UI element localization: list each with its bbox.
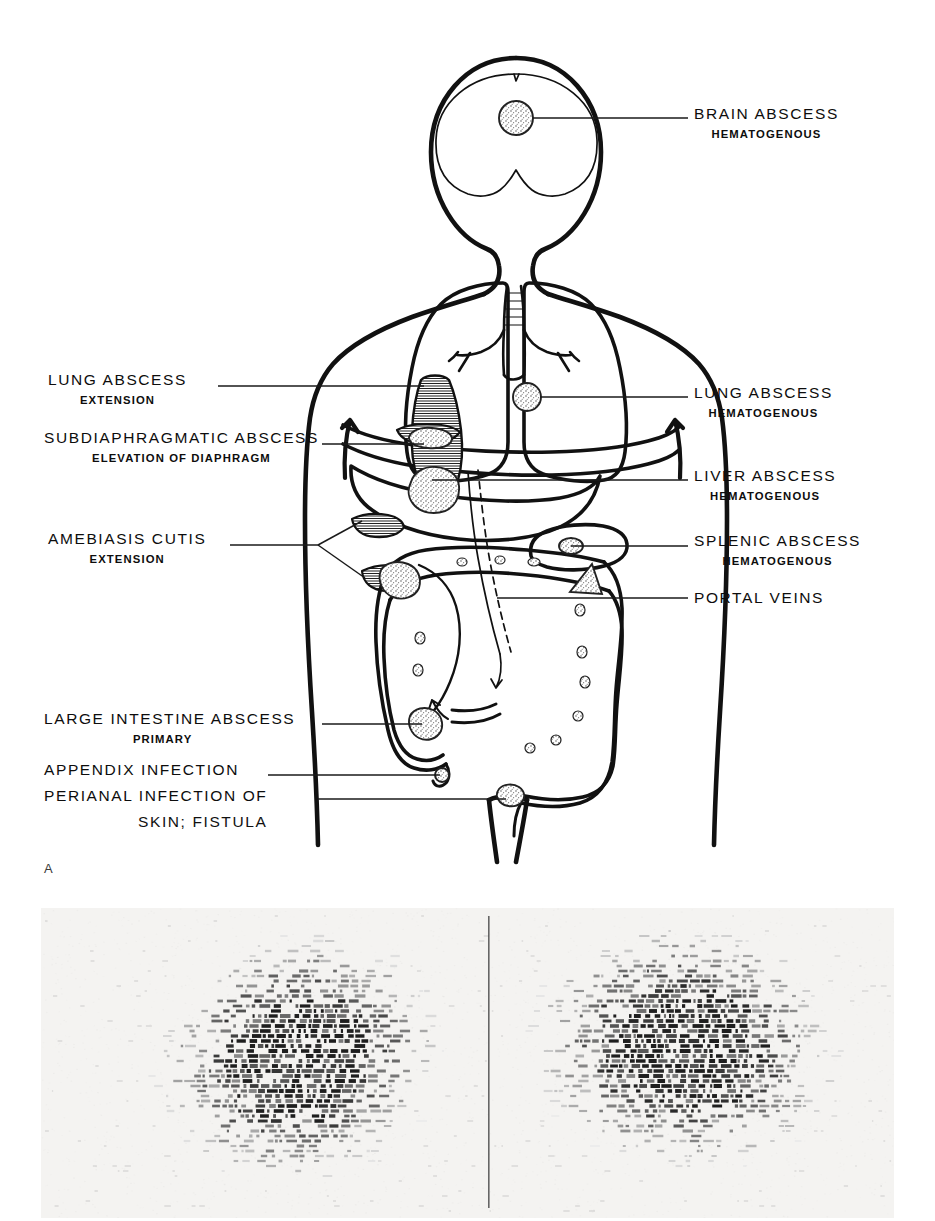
label-sub: HEMATOGENOUS xyxy=(694,556,861,567)
label-portal-veins: PORTAL VEINS xyxy=(694,589,824,607)
label-amebiasis-cutis: AMEBIASIS CUTIS EXTENSION xyxy=(48,530,206,565)
diaphragm-arrow-right xyxy=(667,420,683,478)
cutaneous-abscess-lesion xyxy=(380,562,420,599)
label-main: LIVER ABSCESS xyxy=(694,467,836,484)
label-main: PORTAL VEINS xyxy=(694,589,824,606)
label-sub: EXTENSION xyxy=(48,395,187,406)
label-main: APPENDIX INFECTION xyxy=(44,761,239,778)
label-main: LUNG ABSCESS xyxy=(694,384,833,401)
perianal-lesion xyxy=(497,785,524,807)
colon-descending-inner xyxy=(525,591,622,800)
diaphragm xyxy=(343,425,679,452)
label-main: LUNG ABSCESS xyxy=(48,371,187,388)
label-sub: HEMATOGENOUS xyxy=(694,129,839,140)
label-liver-abscess: LIVER ABSCESS HEMATOGENOUS xyxy=(694,467,836,502)
label-perianal-infection: PERIANAL INFECTION OF SKIN; FISTULA xyxy=(44,787,267,830)
label-sub: EXTENSION xyxy=(48,554,206,565)
label-sub: PRIMARY xyxy=(30,734,295,745)
label-main: PERIANAL INFECTION OF xyxy=(44,787,267,804)
diaphragm-lower xyxy=(343,444,679,475)
leader-amebiasis-cutis xyxy=(230,521,365,578)
brain-abscess-lesion xyxy=(499,101,533,135)
liver-abscess-lesion xyxy=(409,467,459,513)
scan-image xyxy=(41,908,894,1218)
cutaneous-tract-upper xyxy=(352,514,404,537)
label-lung-abscess-extension: LUNG ABSCESS EXTENSION xyxy=(48,371,187,406)
label-sub: HEMATOGENOUS xyxy=(694,408,833,419)
label-lung-abscess-hematogenous: LUNG ABSCESS HEMATOGENOUS xyxy=(694,384,833,419)
figure-container: LUNG ABSCESS EXTENSION SUBDIAPHRAGMATIC … xyxy=(0,0,935,1221)
label-subdiaphragmatic-abscess: SUBDIAPHRAGMATIC ABSCESS ELEVATION OF DI… xyxy=(44,429,319,464)
crotch xyxy=(489,800,527,862)
label-main: AMEBIASIS CUTIS xyxy=(48,530,206,547)
label-sub: ELEVATION OF DIAPHRAGM xyxy=(44,453,319,464)
label-main: BRAIN ABSCESS xyxy=(694,105,839,122)
panel-letter: A xyxy=(44,861,53,876)
subphrenic-abscess-lesion xyxy=(409,428,452,448)
radioisotope-scan-panel xyxy=(41,908,894,1218)
lung-abscess-lesion-right xyxy=(513,383,541,411)
label-main: SUBDIAPHRAGMATIC ABSCESS xyxy=(44,429,319,446)
label-appendix-infection: APPENDIX INFECTION xyxy=(44,761,239,779)
label-splenic-abscess: SPLENIC ABSCESS HEMATOGENOUS xyxy=(694,532,861,567)
label-line2: SKIN; FISTULA xyxy=(44,814,267,830)
label-main: SPLENIC ABSCESS xyxy=(694,532,861,549)
label-main: LARGE INTESTINE ABSCESS xyxy=(44,710,295,727)
label-brain-abscess: BRAIN ABSCESS HEMATOGENOUS xyxy=(694,105,839,140)
label-sub: HEMATOGENOUS xyxy=(694,491,836,502)
label-large-intestine-abscess: LARGE INTESTINE ABSCESS PRIMARY xyxy=(44,710,295,745)
